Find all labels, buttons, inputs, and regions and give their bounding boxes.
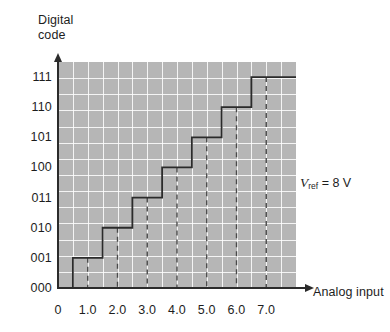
x-tick-label: 7.0 xyxy=(257,303,275,317)
y-tick-label: 101 xyxy=(6,130,52,144)
x-tick-label: 4.0 xyxy=(168,303,186,317)
x-tick-label: 5.0 xyxy=(198,303,216,317)
y-tick-label: 000 xyxy=(6,281,52,295)
x-axis-line xyxy=(57,287,307,289)
staircase-curve xyxy=(58,62,296,288)
x-tick-label: 0 xyxy=(54,303,61,317)
y-tick-label: 010 xyxy=(6,221,52,235)
x-tick-label: 2.0 xyxy=(109,303,127,317)
y-axis-line xyxy=(57,60,59,289)
vref-value: = 8 V xyxy=(318,176,351,190)
x-tick-label: 3.0 xyxy=(138,303,156,317)
y-tick-label: 111 xyxy=(6,70,52,84)
y-axis-arrow-icon xyxy=(54,53,62,62)
adc-transfer-function-figure: Digital code 000001010011100101110111 01… xyxy=(0,0,390,332)
y-tick-label-group: 000001010011100101110111 xyxy=(2,0,52,332)
y-tick-label: 110 xyxy=(6,100,52,114)
vref-symbol: V xyxy=(300,175,308,190)
y-tick-label: 001 xyxy=(6,251,52,265)
vref-annotation: Vref = 8 V xyxy=(300,175,351,191)
x-tick-label-group: 01.02.03.04.05.06.07.0 xyxy=(0,303,390,323)
y-tick-label: 011 xyxy=(6,191,52,205)
transfer-function-polyline xyxy=(58,77,296,288)
x-tick-label: 1.0 xyxy=(79,303,97,317)
dashed-marker-group xyxy=(88,77,267,288)
plot-area xyxy=(58,62,296,288)
x-axis-title: Analog input xyxy=(313,285,384,299)
x-tick-label: 6.0 xyxy=(228,303,246,317)
vref-subscript: ref xyxy=(308,181,318,191)
y-tick-label: 100 xyxy=(6,160,52,174)
